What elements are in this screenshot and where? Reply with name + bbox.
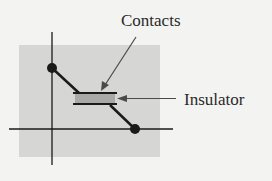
insulator-layer — [75, 94, 115, 103]
terminal-dot-top — [47, 63, 57, 73]
insulator-label: Insulator — [184, 91, 244, 108]
contacts-label: Contacts — [121, 12, 181, 29]
terminal-dot-bottom — [130, 124, 140, 134]
